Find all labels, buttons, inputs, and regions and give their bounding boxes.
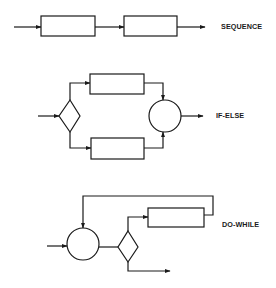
do-while-exit-arrow	[128, 262, 170, 271]
if-else-false-branch-arrow	[70, 132, 91, 148]
if-else-true-merge-arrow	[144, 83, 163, 100]
diagram-svg	[0, 0, 276, 288]
do-while-construct	[47, 196, 213, 271]
control-structures-diagram: SEQUENCE IF-ELSE DO-WHILE	[0, 0, 276, 288]
do-while-process-box	[148, 208, 204, 227]
do-while-decision-diamond	[118, 231, 138, 262]
if-else-label: IF-ELSE	[216, 111, 244, 120]
if-else-true-branch-arrow	[70, 83, 90, 100]
do-while-junction-circle	[67, 228, 99, 260]
do-while-body-branch-arrow	[128, 217, 148, 231]
if-else-true-process-box	[90, 74, 144, 94]
do-while-label: DO-WHILE	[222, 220, 259, 229]
if-else-construct	[38, 74, 203, 159]
sequence-process-box-2	[124, 16, 177, 36]
sequence-construct	[14, 16, 205, 36]
if-else-decision-diamond	[59, 100, 80, 132]
if-else-junction-circle	[149, 100, 181, 132]
sequence-label: SEQUENCE	[221, 22, 262, 31]
if-else-false-merge-arrow	[144, 132, 163, 148]
sequence-process-box-1	[41, 16, 95, 36]
if-else-false-process-box	[91, 138, 144, 159]
